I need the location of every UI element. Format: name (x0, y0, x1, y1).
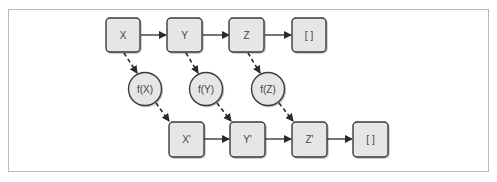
box-y-label: Y (181, 30, 188, 41)
box-z-label: Z (243, 30, 249, 41)
box-x-label: X (120, 30, 127, 41)
circle-fx-label: f(X) (137, 84, 153, 95)
box-empty-prime-label: [ ] (366, 134, 375, 145)
map-diagram: X Y Z [ ] f(X) f(Y) f(Z) X' Y' Z' [ ] (0, 0, 497, 182)
circle-fz-label: f(Z) (260, 84, 276, 95)
box-y-prime-label: Y' (243, 134, 252, 145)
box-empty-label: [ ] (305, 30, 314, 41)
box-x-prime-label: X' (182, 134, 191, 145)
circle-fy-label: f(Y) (198, 84, 214, 95)
box-z-prime-label: Z' (305, 134, 313, 145)
